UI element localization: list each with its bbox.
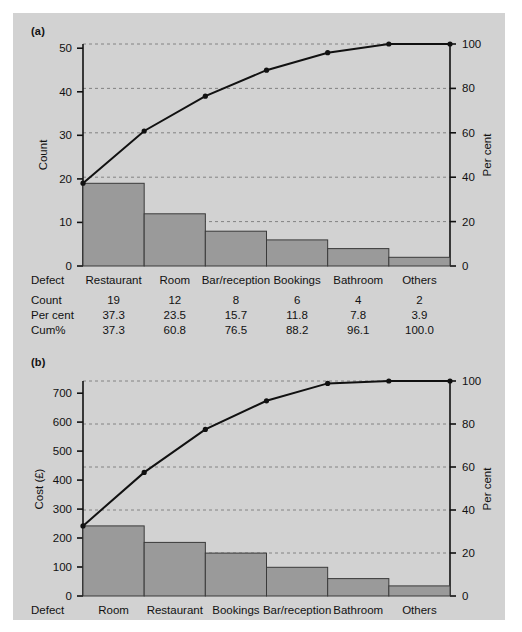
cell-count: 6 bbox=[294, 294, 300, 306]
bar bbox=[389, 586, 450, 596]
cat-label: Bar/reception bbox=[263, 604, 331, 616]
data-point bbox=[142, 128, 147, 133]
cell-count: 4 bbox=[355, 294, 362, 306]
cell-percent: 37.3 bbox=[102, 309, 124, 321]
bar bbox=[83, 526, 144, 596]
bar bbox=[83, 183, 144, 266]
cat-label: Bookings bbox=[212, 604, 260, 616]
chart-a-y2label: Per cent bbox=[481, 133, 493, 177]
chart-a-left-axis: 0 10 20 30 40 50 Count bbox=[37, 42, 83, 272]
cat-label: Others bbox=[402, 274, 437, 286]
chart-a-svg: (a) 0 bbox=[13, 13, 505, 343]
chart-b-ytick-700: 700 bbox=[53, 387, 72, 399]
chart-a-ytick-30: 30 bbox=[59, 129, 72, 141]
chart-a-y2tick-0: 0 bbox=[462, 260, 468, 272]
figure-panel: (a) 0 bbox=[13, 13, 505, 620]
cat-label: Room bbox=[159, 274, 190, 286]
chart-a-y2tick-100: 100 bbox=[462, 38, 481, 50]
chart-a-ylabel: Count bbox=[37, 139, 49, 170]
cell-cum: 96.1 bbox=[347, 324, 369, 336]
bar bbox=[205, 231, 266, 266]
pareto-figure: (a) 0 bbox=[0, 0, 522, 632]
cell-count: 8 bbox=[233, 294, 239, 306]
data-point bbox=[264, 398, 269, 403]
chart-a-y2tick-80: 80 bbox=[462, 82, 475, 94]
chart-a-block: (a) 0 bbox=[13, 13, 505, 343]
chart-a-ytick-10: 10 bbox=[59, 216, 72, 228]
cell-percent: 3.9 bbox=[411, 309, 427, 321]
chart-a-cum-line bbox=[80, 41, 452, 185]
cat-label: Bar/reception bbox=[202, 274, 270, 286]
chart-b-ytick-500: 500 bbox=[53, 445, 72, 457]
cell-percent: 7.8 bbox=[350, 309, 366, 321]
chart-b-block: (b) bbox=[13, 343, 505, 620]
chart-b-svg: (b) bbox=[13, 343, 505, 620]
chart-b-y2label: Per cent bbox=[481, 467, 493, 511]
chart-b-y2tick-0: 0 bbox=[462, 590, 468, 602]
bar bbox=[328, 579, 389, 596]
chart-b-ytick-0: 0 bbox=[66, 590, 72, 602]
chart-b-ytick-300: 300 bbox=[53, 503, 72, 515]
chart-a-right-axis: 0 20 40 60 80 100 Per cent bbox=[450, 38, 493, 272]
bar bbox=[267, 240, 328, 266]
data-point bbox=[325, 381, 330, 386]
cell-percent: 23.5 bbox=[164, 309, 186, 321]
cell-cum: 88.2 bbox=[286, 324, 308, 336]
data-point bbox=[203, 94, 208, 99]
data-point bbox=[80, 181, 85, 186]
cell-cum: 100.0 bbox=[405, 324, 434, 336]
chart-b-cum-line bbox=[80, 378, 452, 528]
chart-b-ytick-200: 200 bbox=[53, 532, 72, 544]
row-label-percent: Per cent bbox=[31, 309, 75, 321]
data-point bbox=[386, 41, 391, 46]
bar bbox=[267, 567, 328, 596]
cell-count: 12 bbox=[168, 294, 181, 306]
row-label-defect: Defect bbox=[31, 604, 65, 616]
chart-b-right-axis: 0 20 40 60 80 100 Per cent bbox=[450, 375, 493, 602]
row-label-defect: Defect bbox=[31, 274, 65, 286]
cell-cum: 37.3 bbox=[102, 324, 124, 336]
data-point bbox=[80, 523, 85, 528]
cat-label: Bathroom bbox=[333, 604, 383, 616]
chart-b-ylabel: Cost (£) bbox=[33, 468, 45, 509]
chart-b-y2tick-40: 40 bbox=[462, 504, 475, 516]
bar bbox=[205, 553, 266, 596]
chart-b-y2tick-60: 60 bbox=[462, 461, 475, 473]
chart-a-bars bbox=[83, 183, 450, 266]
cell-count: 19 bbox=[107, 294, 120, 306]
cat-label: Restaurant bbox=[147, 604, 204, 616]
chart-a-ytick-50: 50 bbox=[59, 42, 72, 54]
chart-b-bars bbox=[83, 526, 450, 596]
cell-percent: 15.7 bbox=[225, 309, 247, 321]
cell-cum: 60.8 bbox=[164, 324, 186, 336]
panel-a-label: (a) bbox=[31, 25, 45, 37]
chart-a-y2tick-20: 20 bbox=[462, 216, 475, 228]
chart-b-left-axis: 0 100 200 300 400 500 600 700 Cost (£) bbox=[33, 381, 83, 602]
cell-count: 2 bbox=[416, 294, 422, 306]
cat-label: Bookings bbox=[273, 274, 321, 286]
data-point bbox=[142, 470, 147, 475]
chart-a-ytick-40: 40 bbox=[59, 86, 72, 98]
chart-b-categories: Defect Room Restaurant Bookings Bar/rece… bbox=[31, 604, 437, 616]
chart-b-ytick-100: 100 bbox=[53, 561, 72, 573]
panel-b-label: (b) bbox=[31, 356, 46, 368]
chart-b-y2tick-100: 100 bbox=[462, 375, 481, 387]
data-point bbox=[264, 68, 269, 73]
chart-b-ytick-600: 600 bbox=[53, 416, 72, 428]
data-point bbox=[386, 378, 391, 383]
cat-label: Bathroom bbox=[333, 274, 383, 286]
bar bbox=[389, 257, 450, 266]
cat-label: Others bbox=[402, 604, 437, 616]
bar bbox=[328, 249, 389, 266]
chart-b-y2tick-80: 80 bbox=[462, 418, 475, 430]
cat-label: Restaurant bbox=[85, 274, 142, 286]
row-label-count: Count bbox=[31, 294, 62, 306]
bar bbox=[144, 542, 205, 596]
data-point bbox=[203, 427, 208, 432]
cell-percent: 11.8 bbox=[286, 309, 308, 321]
chart-a-ytick-0: 0 bbox=[66, 260, 72, 272]
chart-a-ytick-20: 20 bbox=[59, 173, 72, 185]
bar bbox=[144, 214, 205, 266]
chart-a-y2tick-40: 40 bbox=[462, 171, 475, 183]
chart-b-y2tick-20: 20 bbox=[462, 547, 475, 559]
